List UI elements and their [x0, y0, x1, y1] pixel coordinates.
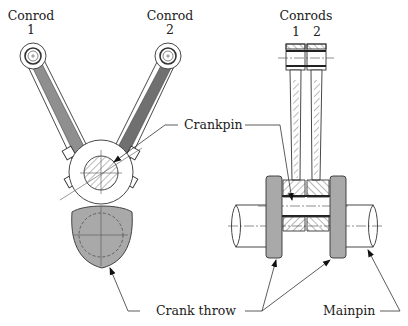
crank-mechanism-diagram: Conrod 1 Conrod 2 Conrods 1 2 Crankpin C… — [0, 0, 408, 326]
conrod-1-label-line1: Conrod — [8, 8, 55, 23]
conrod-2-label-line1: Conrod — [147, 8, 194, 23]
left-view — [20, 43, 181, 268]
crank-throw-web-right — [330, 176, 346, 258]
conrod-number-1: 1 — [292, 24, 300, 39]
mainpin-label: Mainpin — [323, 303, 375, 318]
crank-throw-label: Crank throw — [156, 303, 236, 318]
crank-throw-web-left — [266, 176, 282, 258]
conrods-label: Conrods — [279, 8, 332, 23]
conrod-number-2: 2 — [313, 24, 321, 39]
right-view — [228, 44, 382, 258]
conrod-1-label-line2: 1 — [27, 22, 35, 37]
crankpin-label: Crankpin — [184, 117, 243, 132]
conrod-2-label-line2: 2 — [166, 22, 174, 37]
